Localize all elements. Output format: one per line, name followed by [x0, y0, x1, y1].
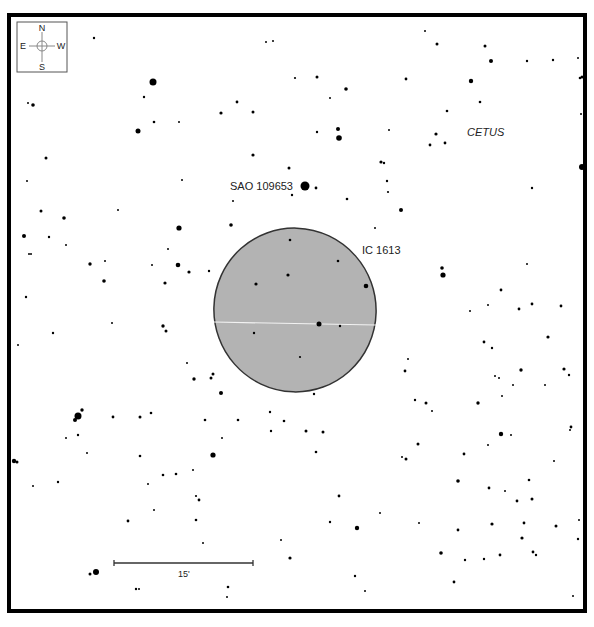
star-icon	[329, 521, 331, 523]
star-icon	[479, 101, 482, 104]
star-icon	[387, 191, 389, 193]
star-icon	[291, 194, 293, 196]
star-icon	[252, 111, 255, 114]
star-icon	[490, 522, 493, 525]
star-icon	[364, 590, 366, 592]
star-icon	[219, 391, 223, 395]
star-icon	[580, 113, 582, 115]
star-icon	[444, 142, 447, 145]
star-icon	[270, 430, 272, 432]
star-icon	[127, 520, 130, 523]
star-icon	[153, 509, 155, 511]
star-icon	[221, 437, 223, 439]
star-icon	[208, 270, 210, 272]
star-icon	[488, 487, 491, 490]
star-icon	[147, 483, 149, 485]
star-icon	[440, 272, 445, 277]
star-icon	[288, 556, 291, 559]
star-icon	[186, 362, 188, 364]
star-icon	[386, 180, 388, 182]
star-icon	[150, 79, 157, 86]
compass-east-label: E	[20, 41, 26, 51]
star-icon	[226, 596, 228, 598]
star-icon	[25, 296, 27, 298]
star-icon	[499, 432, 503, 436]
star-icon	[401, 456, 403, 458]
star-icon	[436, 43, 439, 46]
star-icon	[577, 57, 579, 59]
star-icon	[337, 260, 340, 263]
star-icon	[254, 282, 257, 285]
star-icon	[195, 519, 198, 522]
star-icon	[195, 495, 197, 497]
star-icon	[153, 121, 156, 124]
star-icon	[73, 418, 77, 422]
star-icon	[150, 412, 153, 415]
star-icon	[86, 452, 88, 454]
star-icon	[546, 335, 549, 338]
star-icon	[399, 208, 403, 212]
star-icon	[111, 322, 113, 324]
star-icon	[374, 227, 376, 229]
star-chart: N S E W IC 1613 SAO 109653CETUS15'	[0, 0, 594, 627]
star-icon	[463, 453, 466, 456]
star-icon	[251, 153, 254, 156]
star-icon	[569, 429, 571, 431]
star-icon	[80, 408, 83, 411]
star-icon	[104, 260, 106, 262]
star-icon	[431, 410, 433, 412]
star-icon	[562, 367, 565, 370]
star-icon	[555, 525, 558, 528]
star-icon	[301, 182, 310, 191]
star-icon	[187, 270, 190, 273]
star-icon	[405, 78, 408, 81]
star-icon	[383, 162, 385, 164]
star-icon	[12, 459, 16, 463]
star-icon	[229, 223, 233, 227]
star-icon	[572, 595, 574, 597]
star-icon	[22, 234, 26, 238]
star-icon	[117, 209, 119, 211]
star-icon	[346, 198, 349, 201]
star-icon	[237, 419, 240, 422]
star-icon	[516, 500, 519, 503]
star-icon	[16, 461, 19, 464]
star-icon	[531, 303, 534, 306]
star-icon	[315, 451, 318, 454]
star-icon	[210, 377, 213, 380]
star-icon	[27, 102, 29, 104]
star-icon	[489, 59, 493, 63]
star-icon	[138, 588, 140, 590]
star-icon	[62, 216, 66, 220]
star-icon	[570, 426, 573, 429]
star-icon	[48, 236, 50, 238]
star-icon	[504, 490, 506, 492]
star-icon	[531, 498, 534, 501]
star-icon	[175, 473, 178, 476]
star-icon	[316, 131, 318, 133]
star-icon	[77, 434, 79, 436]
star-icon	[532, 551, 535, 554]
star-icon	[167, 248, 169, 250]
star-icon	[512, 384, 514, 386]
star-icon	[483, 341, 486, 344]
star-icon	[464, 559, 466, 561]
star-icon	[316, 76, 319, 79]
star-icon	[424, 30, 426, 32]
star-icon	[253, 332, 255, 334]
star-icon	[315, 187, 318, 190]
star-icon	[388, 129, 390, 131]
star-icon	[280, 539, 282, 541]
star-icon	[379, 512, 381, 514]
star-icon	[161, 324, 164, 327]
star-icon	[338, 495, 341, 498]
star-icon	[379, 160, 382, 163]
star-icon	[31, 103, 35, 107]
star-icon	[336, 135, 342, 141]
star-icon	[288, 167, 291, 170]
star-icon	[544, 384, 546, 386]
star-icon	[518, 308, 521, 311]
star-icon	[407, 358, 409, 360]
star-icon	[139, 416, 142, 419]
star-icon	[135, 588, 137, 590]
